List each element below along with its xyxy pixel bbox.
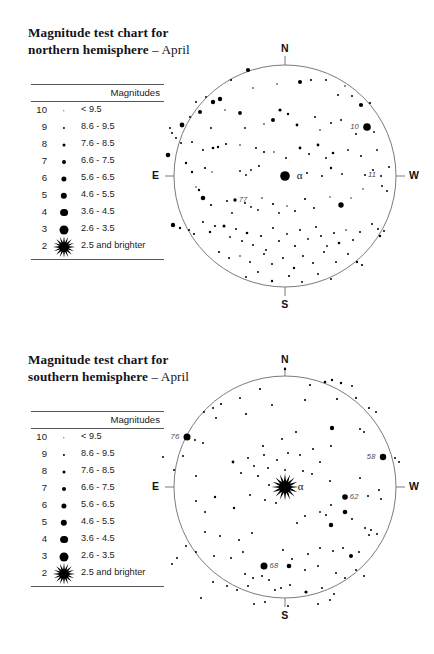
star-dot	[335, 572, 337, 574]
star-dot	[268, 484, 270, 486]
star-dot	[212, 581, 214, 583]
star-dot	[200, 597, 202, 599]
star-dot	[335, 261, 337, 263]
star-dot	[202, 221, 204, 223]
star-dot	[325, 514, 327, 516]
star-dot	[244, 573, 246, 575]
star-dot	[171, 223, 175, 227]
star-dot	[304, 569, 306, 571]
star-dot	[272, 203, 274, 205]
star-dot	[351, 518, 353, 520]
star-dot	[204, 531, 206, 533]
star-dot	[326, 245, 328, 247]
star-dot	[294, 245, 296, 247]
star-dot	[381, 185, 383, 187]
star-dot	[289, 584, 291, 586]
star-dot	[364, 174, 366, 176]
star-dot	[337, 94, 339, 96]
star-dot	[252, 87, 254, 89]
star-dot	[367, 495, 369, 497]
star-dot	[261, 197, 263, 199]
star-dot	[203, 411, 205, 413]
star-dot	[273, 151, 275, 153]
star-dot	[204, 167, 206, 169]
star-dot	[302, 255, 304, 257]
star-dot	[268, 579, 270, 581]
star-dot	[209, 231, 211, 233]
star-number-label: 76	[171, 432, 180, 441]
star-dot	[304, 399, 306, 401]
star-dot	[361, 264, 363, 266]
star-dot	[383, 230, 385, 232]
star-dot	[191, 171, 193, 173]
star-dot	[325, 79, 327, 81]
star-dot	[278, 212, 280, 214]
star-dot	[298, 80, 302, 84]
star-dot	[321, 587, 323, 589]
star-dot	[356, 261, 358, 263]
sky-circle	[0, 0, 434, 327]
star-dot	[238, 539, 240, 541]
star-dot	[291, 558, 293, 560]
star-dot	[252, 244, 254, 246]
star-dot	[184, 434, 191, 441]
star-dot	[173, 469, 175, 471]
star-dot	[264, 499, 266, 501]
star-dot	[204, 511, 206, 513]
star-dot	[217, 146, 219, 148]
star-dot	[312, 262, 314, 264]
direction-label-north: N	[281, 353, 289, 365]
star-dot	[195, 101, 197, 103]
star-dot	[193, 233, 195, 235]
star-dot	[233, 507, 235, 509]
star-dot	[275, 502, 277, 504]
center-star-alpha-label: α	[297, 169, 303, 181]
star-dot	[202, 442, 204, 444]
star-dot	[329, 196, 330, 197]
star-dot	[369, 102, 371, 104]
star-dot	[394, 457, 396, 459]
star-dot	[267, 467, 269, 469]
star-dot	[321, 175, 323, 177]
star-dot	[239, 170, 241, 172]
star-dot	[309, 384, 311, 386]
star-dot	[245, 174, 247, 176]
star-dot	[189, 116, 191, 118]
star-dot	[244, 127, 246, 129]
star-dot	[198, 189, 200, 191]
center-star	[280, 171, 290, 181]
star-dot	[264, 601, 266, 603]
star-dot	[332, 550, 334, 552]
star-dot	[351, 95, 353, 97]
direction-label-south: S	[281, 298, 288, 310]
star-dot	[355, 569, 357, 571]
star-dot	[310, 79, 312, 81]
star-dot	[162, 456, 164, 458]
star-dot	[350, 197, 351, 198]
star-dot	[280, 587, 282, 589]
star-dot	[347, 253, 349, 255]
star-dot	[380, 498, 382, 500]
star-dot	[336, 398, 338, 400]
star-dot	[378, 489, 380, 491]
star-dot	[286, 233, 288, 235]
star-dot	[360, 155, 362, 157]
star-dot	[263, 454, 265, 456]
star-dot	[364, 527, 366, 529]
star-dot	[330, 278, 332, 280]
star-dot	[330, 167, 332, 169]
star-dot	[287, 564, 292, 569]
star-dot	[386, 190, 388, 192]
star-dot	[329, 523, 333, 527]
star-dot	[281, 438, 283, 440]
star-dot	[232, 461, 235, 464]
star-dot	[171, 132, 173, 134]
star-dot	[398, 461, 400, 463]
star-dot	[276, 83, 278, 85]
star-dot	[194, 439, 196, 441]
star-dot	[371, 223, 373, 225]
star-dot	[373, 131, 375, 133]
star-dot	[260, 235, 262, 237]
star-dot	[324, 381, 327, 384]
star-dot	[230, 79, 232, 81]
